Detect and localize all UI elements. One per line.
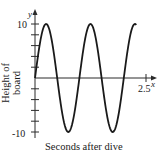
- y-axis-label: Height of board: [0, 53, 22, 113]
- x-axis-label: Seconds after dive: [45, 141, 123, 152]
- x-tick-label: 2.5: [138, 84, 151, 94]
- x-axis-symbol: x: [151, 79, 155, 89]
- y-axis-symbol: y: [28, 9, 32, 19]
- y-axis-arrow-icon: [33, 9, 38, 15]
- y-tick-label-bottom: -10: [12, 129, 25, 139]
- y-tick-label-top: 10: [17, 20, 27, 30]
